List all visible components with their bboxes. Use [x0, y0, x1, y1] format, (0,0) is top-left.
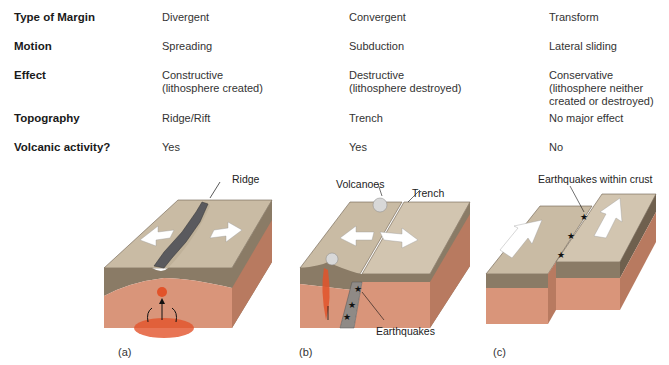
- row-label-type: Type of Margin: [14, 11, 95, 23]
- cell-transform-type: Transform: [549, 11, 599, 24]
- cell-transform-motion: Lateral sliding: [549, 40, 617, 53]
- volcanoes-label: Volcanoes: [336, 178, 384, 190]
- row-label-motion: Motion: [14, 40, 52, 52]
- diagram-transform: ★ ★ ★ Earthquakes within crust: [460, 170, 669, 340]
- caption-b: (b): [299, 346, 312, 358]
- cell-transform-topography: No major effect: [549, 112, 623, 125]
- cell-divergent-topography: Ridge/Rift: [162, 112, 210, 125]
- caption-c: (c): [493, 346, 506, 358]
- cell-convergent-type: Convergent: [349, 11, 406, 24]
- svg-text:★: ★: [580, 212, 588, 222]
- cell-convergent-volcanic: Yes: [349, 141, 367, 154]
- diagram-divergent: Ridge: [90, 170, 290, 340]
- cell-transform-effect: Conservative (lithosphere neither create…: [549, 69, 654, 108]
- row-label-topography: Topography: [14, 112, 80, 124]
- svg-text:★: ★: [557, 250, 565, 260]
- cell-divergent-volcanic: Yes: [162, 141, 180, 154]
- cell-divergent-type: Divergent: [162, 11, 209, 24]
- svg-text:★: ★: [348, 300, 356, 310]
- cell-convergent-topography: Trench: [349, 112, 383, 125]
- trench-label: Trench: [412, 187, 444, 199]
- earthquakes-within-crust-label: Earthquakes within crust: [538, 173, 652, 185]
- row-label-effect: Effect: [14, 69, 46, 81]
- cell-transform-volcanic: No: [549, 141, 563, 154]
- ridge-label: Ridge: [232, 173, 259, 185]
- cell-convergent-effect: Destructive (lithosphere destroyed): [349, 69, 462, 95]
- caption-a: (a): [118, 346, 131, 358]
- cell-divergent-effect: Constructive (lithosphere created): [162, 69, 263, 95]
- cell-convergent-motion: Subduction: [349, 40, 404, 53]
- earthquakes-label: Earthquakes: [376, 325, 435, 337]
- cell-divergent-motion: Spreading: [162, 40, 212, 53]
- svg-text:★: ★: [354, 284, 362, 294]
- divergent-block-illustration: [90, 170, 290, 340]
- row-label-volcanic: Volcanic activity?: [14, 141, 110, 153]
- svg-text:★: ★: [343, 312, 351, 322]
- transform-block-illustration: ★ ★ ★: [460, 170, 669, 340]
- convergent-block-illustration: ★ ★ ★: [280, 170, 480, 340]
- svg-text:★: ★: [567, 231, 575, 241]
- diagram-convergent: ★ ★ ★ Volcanoes Trench Earthquakes: [280, 170, 480, 340]
